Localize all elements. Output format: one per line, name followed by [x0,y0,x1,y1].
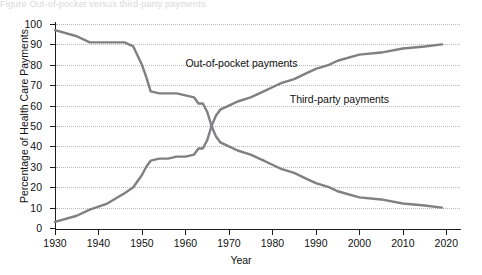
chart-container: Figure Out-of-pocket versus third-party … [0,0,482,275]
series-line-third-party [55,44,442,221]
series-label-out-of-pocket: Out-of-pocket payments [185,57,297,69]
series-lines [0,0,482,275]
series-label-third-party: Third-party payments [290,93,389,105]
